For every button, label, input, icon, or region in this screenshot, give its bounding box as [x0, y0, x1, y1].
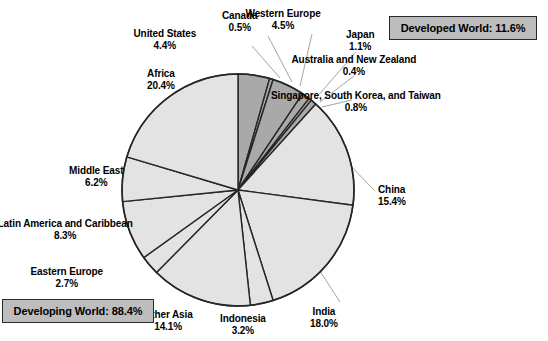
slice-label-name: Western Europe: [246, 8, 321, 20]
slice-label-name: Singapore, South Korea, and Taiwan: [271, 90, 441, 102]
slice-label-name: Japan: [346, 29, 374, 41]
slice-label-value: 2.7%: [31, 278, 104, 290]
slice-label-name: Indonesia: [220, 313, 266, 325]
slice-label-name: China: [378, 184, 406, 196]
slice-label-name: Middle East: [69, 165, 123, 177]
slice-label-name: Eastern Europe: [31, 266, 104, 278]
pie-chart-figure: United States4.4%Canada0.5%Western Europ…: [0, 0, 548, 341]
slice-label-value: 4.5%: [246, 20, 321, 32]
developing-world-badge: Developing World: 88.4%: [2, 299, 154, 323]
slice-label: Middle East6.2%: [69, 165, 123, 189]
slice-label: Singapore, South Korea, and Taiwan0.8%: [271, 90, 441, 114]
slice-label-value: 1.1%: [346, 41, 374, 53]
leader-line: [318, 268, 340, 302]
slice-label-value: 8.3%: [0, 230, 133, 242]
slice-label: Western Europe4.5%: [246, 8, 321, 32]
slice-label-name: India: [310, 306, 338, 318]
slice-label-value: 0.8%: [271, 102, 441, 114]
slice-label: India18.0%: [310, 306, 338, 330]
slice-label-name: United States: [134, 28, 197, 40]
slice-label-name: Africa: [147, 68, 175, 80]
slice-label-value: 20.4%: [147, 80, 175, 92]
slice-label-value: 4.4%: [134, 40, 197, 52]
slice-label-value: 18.0%: [310, 318, 338, 330]
slice-label: Australia and New Zealand0.4%: [292, 54, 417, 78]
slice-label: Africa20.4%: [147, 68, 175, 92]
slice-label: Japan1.1%: [346, 29, 374, 53]
slice-label-value: 6.2%: [69, 177, 123, 189]
slice-label-value: 3.2%: [220, 325, 266, 337]
slice-label-name: Latin America and Caribbean: [0, 218, 133, 230]
slice-label: Eastern Europe2.7%: [31, 266, 104, 290]
slice-label: China15.4%: [378, 184, 406, 208]
developed-world-badge: Developed World: 11.6%: [389, 16, 537, 40]
leader-line: [268, 36, 292, 82]
slice-label: Latin America and Caribbean8.3%: [0, 218, 133, 242]
slice-label-name: Australia and New Zealand: [292, 54, 417, 66]
slice-label: Indonesia3.2%: [220, 313, 266, 337]
slice-label-value: 15.4%: [378, 196, 406, 208]
slice-label: United States4.4%: [134, 28, 197, 52]
slice-label-value: 0.4%: [292, 66, 417, 78]
